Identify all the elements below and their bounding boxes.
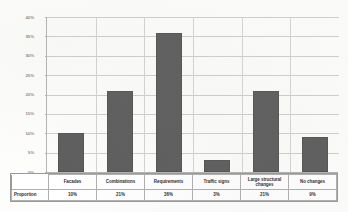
table-value-cell: 21% xyxy=(241,190,289,201)
category-separator xyxy=(290,17,291,172)
category-separator xyxy=(144,17,145,172)
bar-slot xyxy=(96,17,145,172)
table-value-cell: 3% xyxy=(193,190,241,201)
category-separator xyxy=(193,17,194,172)
table-row-header: Proportion xyxy=(12,190,49,201)
table-category-cell: Traffic signs xyxy=(193,175,241,190)
y-axis-tick-label: 5% xyxy=(0,150,34,155)
table-value-cell: 36% xyxy=(145,190,193,201)
bar-slot xyxy=(242,17,291,172)
bar-chart-figure: 40%35%30%25%20%15%10%5%0% FacadesCombina… xyxy=(0,0,348,212)
bar-slot xyxy=(290,17,339,172)
bar xyxy=(253,91,279,172)
y-axis-tick-label: 15% xyxy=(0,111,34,116)
table-value-cell: 21% xyxy=(97,190,145,201)
bar-slot xyxy=(144,17,193,172)
data-table: FacadesCombinationsRequirementsTraffic s… xyxy=(10,173,338,202)
bar-slot xyxy=(193,17,242,172)
bar xyxy=(204,160,230,172)
table-category-cell: Large structural changes xyxy=(241,175,289,190)
y-axis-tick-label: 25% xyxy=(0,73,34,78)
table-corner-cell xyxy=(12,175,49,190)
bar xyxy=(107,91,133,172)
bar-slot xyxy=(47,17,96,172)
y-axis-tick-label: 40% xyxy=(0,15,34,20)
table-category-cell: Facades xyxy=(49,175,97,190)
y-axis-tick-label: 10% xyxy=(0,131,34,136)
y-axis-tick-label: 30% xyxy=(0,53,34,58)
y-axis-tick-label: 35% xyxy=(0,34,34,39)
y-axis-tick-label: 20% xyxy=(0,92,34,97)
table-row-values: Proportion 10%21%36%3%21%9% xyxy=(12,190,337,201)
table-category-cell: No changes xyxy=(289,175,337,190)
bar xyxy=(156,33,182,173)
table-value-cell: 9% xyxy=(289,190,337,201)
category-separator xyxy=(96,17,97,172)
category-separator xyxy=(242,17,243,172)
table-category-cell: Requirements xyxy=(145,175,193,190)
table-value-cell: 10% xyxy=(49,190,97,201)
table-row-categories: FacadesCombinationsRequirementsTraffic s… xyxy=(12,175,337,190)
table-category-cell: Combinations xyxy=(97,175,145,190)
bar xyxy=(302,137,328,172)
plot-area: 40%35%30%25%20%15%10%5%0% xyxy=(46,17,338,173)
bar xyxy=(58,133,84,172)
